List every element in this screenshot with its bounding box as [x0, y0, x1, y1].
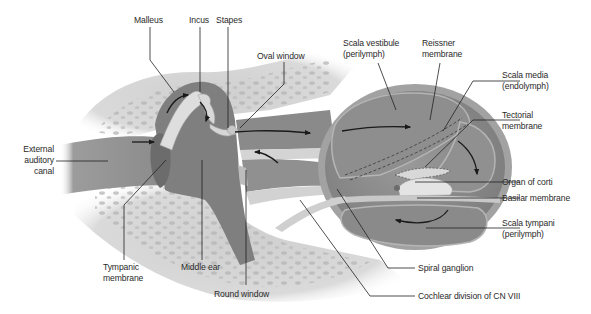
label-tectorial-membrane: Tectorial membrane [502, 110, 542, 132]
scala-tympani-region [341, 205, 487, 246]
label-scala-media: Scala media (endolymph) [502, 70, 549, 92]
label-stapes: Stapes [216, 15, 242, 26]
label-organ-of-corti: Organ of corti [502, 177, 553, 188]
oval-window-ring [228, 126, 237, 135]
label-spiral-ganglion: Spiral ganglion [418, 263, 473, 274]
label-reissner-membrane: Reissner membrane [422, 38, 462, 60]
label-oval-window: Oval window [257, 51, 305, 62]
label-middle-ear: Middle ear [181, 262, 220, 273]
label-scala-vestibule: Scala vestibule (perilymph) [343, 38, 399, 60]
label-basilar-membrane: Basilar membrane [502, 193, 570, 204]
label-scala-tympani: Scala tympani (perilymph) [502, 218, 555, 240]
label-incus: Incus [189, 15, 209, 26]
label-malleus: Malleus [134, 15, 163, 26]
ear-anatomy-illustration [0, 0, 591, 314]
label-external-auditory-canal: External auditory canal [16, 144, 54, 177]
label-round-window: Round window [214, 289, 269, 300]
label-cochlear-division: Cochlear division of CN VIII [418, 291, 520, 302]
label-tympanic-membrane: Tympanic membrane [103, 262, 143, 284]
